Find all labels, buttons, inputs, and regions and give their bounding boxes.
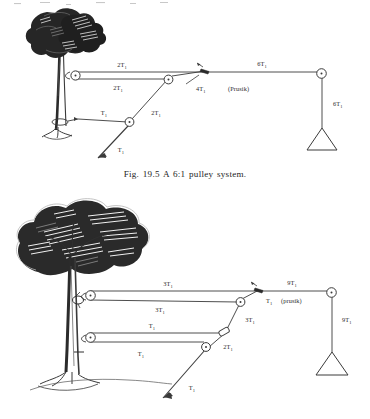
lower-fourth-rope-label: T1 (138, 350, 144, 359)
lower-haul-label: T1 (189, 384, 195, 393)
lower-prusik-note: (prusik) (281, 297, 302, 305)
pulley-lower-bottom (202, 343, 211, 352)
anchor-sling-lower-upper (73, 292, 84, 308)
pulley-lower-mid (236, 298, 245, 307)
pulley-lower-anchor-bottom (86, 333, 96, 343)
lower-top-rope-label: 3T1 (163, 280, 173, 289)
scanned-page: 2T1 2T1 T1 2T1 4T1 (Prusik) 6T1 6T1 T1 F… (0, 0, 370, 419)
lower-second-rope-label: 3T1 (155, 306, 165, 315)
lower-load-rope-label: 9T1 (287, 279, 297, 288)
lower-prusik-tension: T1 (266, 297, 272, 306)
lower-third-rope-label: T1 (149, 322, 155, 331)
figure-9to1-diagram: 3T1 3T1 T1 T1 3T1 2T1 T1 (prusik) 9T1 9T… (0, 0, 370, 419)
pulley-lower-anchor-top (86, 291, 96, 301)
lower-upper-diagonal: 3T1 (245, 316, 255, 325)
lower-load-vertical: 9T1 (342, 316, 352, 325)
load-weight-lower (316, 352, 348, 375)
pulley-lower-load (327, 288, 337, 298)
rope-grab-device (218, 327, 230, 337)
lower-lower-diagonal: 2T1 (223, 343, 233, 352)
